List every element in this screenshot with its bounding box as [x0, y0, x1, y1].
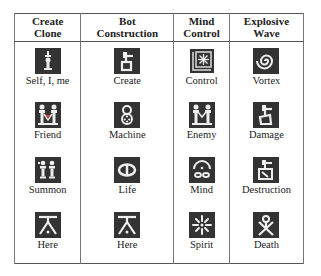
header-mind-control: MindControl	[174, 14, 230, 42]
cell-label: Life	[81, 183, 173, 196]
friend-icon	[35, 102, 61, 128]
header-create-clone: CreateClone	[15, 14, 81, 42]
destruction-icon	[253, 157, 279, 183]
header-bot-construction: BotConstruction	[81, 14, 174, 42]
machine-icon	[114, 102, 140, 128]
table-cell: Spirit	[174, 208, 230, 264]
header-line: Explosive	[244, 15, 289, 27]
table-cell: Vortex	[229, 42, 303, 99]
summon-icon	[35, 157, 61, 183]
table-cell: Mind	[174, 153, 230, 208]
header-line: Clone	[34, 27, 62, 39]
create-icon	[114, 48, 140, 74]
table-cell: Self, I, me	[15, 42, 81, 99]
cell-label: Vortex	[230, 74, 303, 87]
cell-label: Destruction	[230, 183, 303, 196]
header-explosive-wave: ExplosiveWave	[229, 14, 303, 42]
table-cell: Life	[81, 153, 174, 208]
cell-label: Machine	[81, 128, 173, 141]
spirit-icon	[189, 212, 215, 238]
table-cell: Here	[15, 208, 81, 264]
death-icon	[253, 212, 279, 238]
table-cell: Control	[174, 42, 230, 99]
glyph-table: CreateClone BotConstruction MindControl …	[14, 13, 304, 264]
table-row: Self, I, me Create Control Vortex	[15, 42, 304, 99]
header-line: Create	[32, 15, 64, 27]
enemy-icon	[189, 102, 215, 128]
cell-label: Control	[174, 74, 229, 87]
cell-label: Summon	[15, 183, 80, 196]
cell-label: Here	[15, 238, 80, 251]
table-cell: Damage	[229, 98, 303, 153]
table-cell: Summon	[15, 153, 81, 208]
mind-icon	[189, 157, 215, 183]
table-cell: Machine	[81, 98, 174, 153]
table-row: Here Here Spirit Death	[15, 208, 304, 264]
header-line: Control	[183, 27, 219, 39]
table-cell: Here	[81, 208, 174, 264]
cell-label: Enemy	[174, 128, 229, 141]
table-row: Friend Machine Enemy Damage	[15, 98, 304, 153]
damage-icon	[253, 102, 279, 128]
header-row: CreateClone BotConstruction MindControl …	[15, 14, 304, 42]
cell-label: Self, I, me	[15, 74, 80, 87]
table-cell: Friend	[15, 98, 81, 153]
table-row: Summon Life Mind Destruction	[15, 153, 304, 208]
self-icon	[35, 48, 61, 74]
control-icon	[189, 48, 215, 74]
cell-label: Friend	[15, 128, 80, 141]
cell-label: Mind	[174, 183, 229, 196]
header-line: Bot	[119, 15, 136, 27]
cell-label: Damage	[230, 128, 303, 141]
header-line: Construction	[96, 27, 158, 39]
header-line: Wave	[253, 27, 279, 39]
table-cell: Enemy	[174, 98, 230, 153]
vortex-icon	[253, 48, 279, 74]
table-cell: Create	[81, 42, 174, 99]
cell-label: Create	[81, 74, 173, 87]
here-icon	[35, 212, 61, 238]
cell-label: Death	[230, 238, 303, 251]
here-icon	[114, 212, 140, 238]
table-cell: Death	[229, 208, 303, 264]
life-icon	[114, 157, 140, 183]
header-line: Mind	[189, 15, 215, 27]
cell-label: Here	[81, 238, 173, 251]
cell-label: Spirit	[174, 238, 229, 251]
table-cell: Destruction	[229, 153, 303, 208]
